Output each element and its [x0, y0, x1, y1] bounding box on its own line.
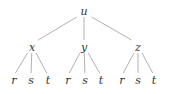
edge-x-s [31, 53, 32, 73]
edge-z-r [123, 53, 134, 73]
leaf-x-r: r [11, 75, 16, 86]
edge-root-x [38, 17, 76, 40]
edge-y-r [69, 53, 80, 73]
edge-root-z [92, 17, 132, 40]
leaf-z-t: t [152, 75, 156, 86]
leaf-y-t: t [99, 75, 103, 86]
edge-y-s [84, 53, 85, 73]
node-root-u: u [80, 6, 87, 17]
edge-y-t [88, 53, 99, 73]
node-z: z [135, 42, 141, 53]
leaf-y-s: s [82, 75, 88, 86]
leaf-z-s: s [135, 75, 141, 86]
node-y: y [81, 42, 87, 53]
leaf-y-r: r [65, 75, 70, 86]
leaf-z-r: r [119, 75, 124, 86]
edge-z-t [142, 53, 153, 73]
leaf-x-t: t [46, 75, 50, 86]
tree-diagram: u x y z r s t r s t r s t [0, 0, 173, 94]
node-x: x [29, 42, 35, 53]
edge-x-r [15, 53, 27, 73]
edge-x-t [36, 53, 47, 73]
leaf-x-s: s [28, 75, 34, 86]
